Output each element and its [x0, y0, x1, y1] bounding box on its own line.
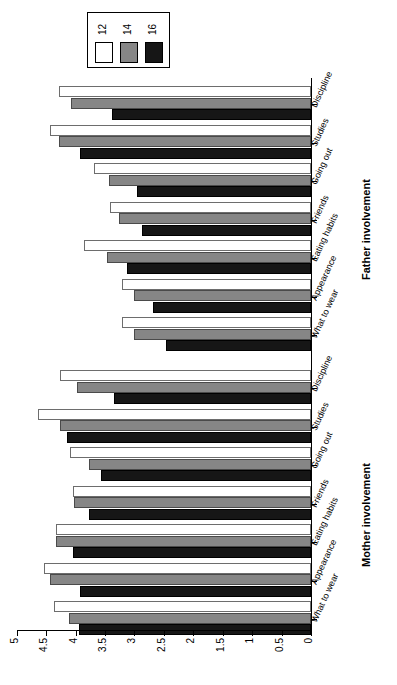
bar-14	[134, 329, 311, 340]
value-tick	[76, 630, 77, 636]
category-tick	[311, 297, 317, 298]
category-tick	[311, 427, 317, 428]
bar-14	[71, 98, 311, 109]
category-tick	[311, 504, 317, 505]
bar-14	[69, 613, 311, 624]
value-tick	[193, 630, 194, 636]
bar-16	[166, 340, 311, 351]
bar-16	[137, 186, 311, 197]
bar-12	[59, 86, 311, 97]
value-tick-label: 4	[68, 638, 84, 644]
bar-12	[73, 486, 311, 497]
bar-16	[127, 263, 311, 274]
bar-12	[50, 125, 311, 136]
legend-swatch-16	[145, 42, 163, 63]
value-tick	[311, 630, 312, 636]
bar-16	[142, 225, 311, 236]
bar-12	[94, 163, 311, 174]
value-tick	[17, 630, 18, 636]
bar-12	[122, 317, 311, 328]
bar-16	[153, 302, 311, 313]
category-axis-line	[311, 78, 312, 630]
value-tick	[134, 630, 135, 636]
bar-16	[80, 586, 311, 597]
bar-14	[77, 382, 311, 393]
value-tick-label: 1	[244, 638, 260, 644]
value-tick-label: 4.5	[38, 638, 54, 652]
chart-legend: 12 14 16	[87, 12, 170, 68]
value-tick	[46, 630, 47, 636]
category-tick	[311, 465, 317, 466]
value-tick-label: 3.5	[97, 638, 113, 652]
category-tick	[311, 104, 317, 105]
bar-12	[70, 447, 311, 458]
bar-12	[84, 240, 311, 251]
value-tick-label: 2.5	[156, 638, 172, 652]
legend-swatch-14	[120, 42, 138, 63]
bar-14	[59, 136, 311, 147]
bar-14	[109, 175, 311, 186]
bar-12	[56, 524, 311, 535]
category-tick	[311, 181, 317, 182]
bar-16	[114, 393, 311, 404]
value-tick-label: 1.5	[215, 638, 231, 652]
category-tick	[311, 619, 317, 620]
bar-14	[50, 574, 311, 585]
bar-14	[134, 290, 311, 301]
bar-14	[119, 213, 311, 224]
bar-12	[110, 202, 311, 213]
bar-14	[107, 252, 311, 263]
category-tick	[311, 581, 317, 582]
value-tick	[282, 630, 283, 636]
value-tick	[223, 630, 224, 636]
bar-14	[74, 497, 311, 508]
legend-label-16: 16	[143, 19, 165, 39]
chart-canvas: 12 14 16 What to wearAppearanceEating ha…	[0, 0, 397, 685]
bar-16	[112, 109, 311, 120]
value-tick	[252, 630, 253, 636]
value-tick	[105, 630, 106, 636]
category-tick	[311, 335, 317, 336]
bar-16	[101, 470, 311, 481]
bar-12	[38, 409, 311, 420]
legend-swatch-12	[95, 42, 113, 63]
bar-16	[89, 509, 311, 520]
bar-14	[89, 459, 311, 470]
legend-label-12: 12	[93, 19, 115, 39]
plot-area: What to wearAppearanceEating habitsFrien…	[0, 78, 397, 638]
bar-14	[60, 420, 311, 431]
group-title-father: Father involvement	[360, 170, 372, 290]
value-tick-label: 0.5	[274, 638, 290, 652]
bar-12	[122, 279, 311, 290]
category-tick	[311, 542, 317, 543]
value-axis: 00.511.522.533.544.55	[0, 630, 397, 685]
legend-entry-14: 14	[118, 19, 140, 63]
bar-12	[54, 601, 311, 612]
category-tick	[311, 220, 317, 221]
bar-16	[73, 547, 311, 558]
value-tick	[164, 630, 165, 636]
value-tick-label: 3	[126, 638, 142, 644]
group-title-mother: Mother involvement	[360, 450, 372, 580]
bar-16	[80, 148, 311, 159]
bar-12	[44, 563, 311, 574]
legend-entry-12: 12	[93, 19, 115, 63]
legend-label-14: 14	[118, 19, 140, 39]
value-tick-label: 5	[9, 638, 25, 644]
category-tick	[311, 388, 317, 389]
category-tick	[311, 143, 317, 144]
value-tick-label: 0	[303, 638, 319, 644]
bar-12	[60, 370, 311, 381]
legend-entry-16: 16	[143, 19, 165, 63]
bar-16	[67, 432, 311, 443]
value-tick-label: 2	[185, 638, 201, 644]
bar-14	[56, 536, 311, 547]
category-tick	[311, 258, 317, 259]
